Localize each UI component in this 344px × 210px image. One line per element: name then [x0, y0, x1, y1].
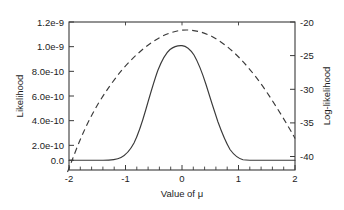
x-ticklabel: 0	[179, 173, 184, 184]
x-axis-title: Value of μ	[161, 188, 203, 199]
x-ticklabel: -1	[121, 173, 129, 184]
y-right-ticklabel: -30	[300, 84, 314, 95]
y-right-ticklabel: -20	[300, 17, 314, 28]
y-left-ticklabel: 0.0	[51, 155, 64, 166]
likelihood-curve	[69, 46, 295, 161]
x-ticklabel: 2	[292, 173, 297, 184]
y-left-axis-title: Likelihood	[14, 75, 25, 118]
figure-container: 1.2e-9 1.0e-9 8.0e-10 6.0e-10 4.0e-10 2.…	[0, 0, 344, 210]
log-likelihood-curve	[68, 30, 296, 172]
likelihood-chart: 1.2e-9 1.0e-9 8.0e-10 6.0e-10 4.0e-10 2.…	[0, 0, 344, 210]
y-left-ticklabel: 1.2e-9	[37, 17, 64, 28]
y-left-ticks	[69, 22, 74, 160]
x-ticklabels: -2 -1 0 1 2	[65, 173, 298, 184]
y-left-ticklabel: 6.0e-10	[32, 91, 64, 102]
x-ticklabel: 1	[236, 173, 241, 184]
x-ticklabel: -2	[65, 173, 73, 184]
y-right-ticklabels: -20 -25 -30 -35 -40	[300, 17, 314, 163]
y-left-ticklabel: 4.0e-10	[32, 115, 64, 126]
y-right-axis-title: Log-likelihood	[321, 67, 332, 126]
y-left-ticklabel: 1.0e-9	[37, 41, 64, 52]
y-left-ticklabel: 2.0e-10	[32, 140, 64, 151]
y-left-ticklabels: 1.2e-9 1.0e-9 8.0e-10 6.0e-10 4.0e-10 2.…	[32, 17, 64, 166]
y-left-ticklabel: 8.0e-10	[32, 66, 64, 77]
y-right-ticklabel: -40	[300, 151, 314, 162]
y-right-ticklabel: -35	[300, 117, 314, 128]
y-right-ticklabel: -25	[300, 50, 314, 61]
